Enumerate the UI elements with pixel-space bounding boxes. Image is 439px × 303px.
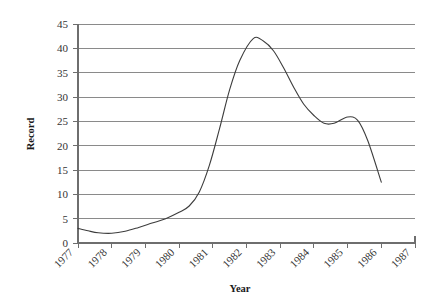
y-tick-label-10: 10 — [57, 188, 69, 200]
y-tick-label-25: 25 — [57, 115, 69, 127]
line-chart: 45 40 35 30 25 20 15 10 5 0 1977 1978 19… — [0, 0, 439, 303]
y-tick-label-40: 40 — [57, 42, 69, 54]
chart-svg: 45 40 35 30 25 20 15 10 5 0 1977 1978 19… — [0, 0, 439, 303]
y-tick-label-35: 35 — [57, 67, 69, 79]
y-tick-label-30: 30 — [57, 91, 69, 103]
y-tick-label-20: 20 — [57, 140, 69, 152]
y-tick-label-15: 15 — [57, 164, 69, 176]
y-axis-title: Record — [25, 118, 36, 151]
y-tick-label-45: 45 — [57, 18, 69, 30]
y-tick-label-5: 5 — [63, 213, 69, 225]
x-axis-title: Year — [230, 283, 251, 294]
